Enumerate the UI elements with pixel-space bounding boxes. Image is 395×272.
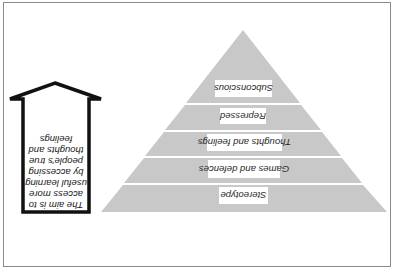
arrow-text-line: useful learning bbox=[24, 178, 87, 189]
label-subconscious: Subconscious bbox=[214, 83, 273, 94]
label-games-and-defences: Games and defences bbox=[199, 164, 290, 175]
arrow-text-line: thoughts and bbox=[28, 145, 84, 156]
pyramid-diagram: Subconscious Repressed Thoughts and feel… bbox=[0, 0, 395, 272]
arrow-text-line: by accessing bbox=[28, 167, 84, 178]
arrow-text-line: feelings bbox=[39, 134, 72, 145]
arrow-text: The aim is to access more useful learnin… bbox=[24, 134, 87, 211]
label-stereotype: Stereotype bbox=[221, 190, 267, 201]
arrow-text-line: people's true bbox=[29, 156, 84, 167]
arrow-text-line: access more bbox=[29, 189, 83, 200]
arrow-text-line: The aim is to bbox=[29, 200, 83, 211]
label-thoughts-and-feelings: Thoughts and feelings bbox=[198, 137, 292, 148]
label-repressed: Repressed bbox=[219, 111, 266, 122]
